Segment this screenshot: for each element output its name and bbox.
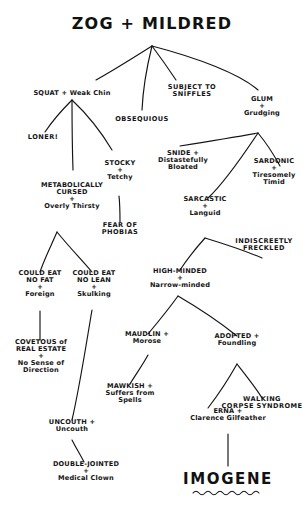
- page-title: ZOG + MILDRED: [72, 14, 232, 33]
- node-fear-of-phobias: FEAR OF PHOBIAS: [93, 222, 147, 236]
- node-sarcastic: SARCASTIC + Languid: [174, 196, 236, 217]
- node-erna: ERNA + Clarence Gilfeather: [181, 408, 275, 422]
- node-snide: SNIDE + Distastefully Bloated: [149, 150, 217, 171]
- node-double-jointed: DOUBLE-JOINTED + Medical Clown: [44, 461, 128, 482]
- node-maudlin: MAUDLIN + Morose: [114, 331, 180, 345]
- node-obsequious: OBSEQUIOUS: [105, 116, 179, 123]
- node-sardonic: SARDONIC + Tiresomely Timid: [245, 158, 303, 186]
- node-could-eat-no-fat: COULD EAT NO FAT + Foreign: [9, 270, 71, 298]
- node-uncouth: UNCOUTH + Uncouth: [41, 419, 103, 433]
- node-subject-to-sniffles: SUBJECT TO SNIFFLES: [156, 84, 228, 98]
- node-indiscreetly-freckled: INDISCREETLY FRECKLED: [226, 238, 302, 252]
- node-squat: SQUAT + Weak Chin: [7, 90, 137, 97]
- node-adopted: ADOPTED + Foundling: [206, 333, 268, 347]
- node-covetous: COVETOUS of REAL ESTATE + No Sense of Di…: [6, 339, 76, 374]
- node-metabolically-cursed: METABOLICALLY CURSED + Overly Thirsty: [31, 182, 113, 210]
- diagram-edges: [0, 0, 305, 519]
- node-imogene: IMOGENE: [183, 470, 273, 488]
- imogene-underline-squiggle: [192, 489, 266, 496]
- node-stocky: STOCKY + Tetchy: [94, 160, 146, 181]
- node-loner: LONER!: [15, 134, 71, 141]
- node-mawkish: MAWKISH + Suffers from Spells: [97, 383, 163, 404]
- node-could-eat-no-lean: COULD EAT NO LEAN + Skulking: [63, 270, 125, 298]
- node-high-minded: HIGH-MINDED + Narrow-minded: [142, 268, 218, 289]
- node-glum: GLUM + Grudging: [231, 96, 293, 117]
- diagram-canvas: ZOG + MILDRED SQUAT + Weak Chin OBSEQUIO…: [0, 0, 305, 519]
